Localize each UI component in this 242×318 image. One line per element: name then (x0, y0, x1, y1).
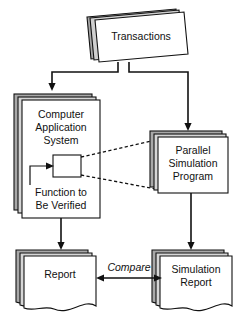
report-panel (24, 256, 96, 311)
node-transactions-label: Transactions (111, 30, 171, 42)
node-transactions[interactable]: Transactions (87, 9, 188, 62)
simulation-report-label-line-1: Simulation (171, 263, 220, 275)
edge-psp-to-simulation-report (187, 193, 194, 250)
simulation-report-label-line-2: Report (180, 276, 212, 288)
compare-arrowhead-left (96, 274, 104, 281)
arrowhead-report (57, 242, 64, 250)
arrowhead-psp (184, 123, 191, 131)
function-inner-box[interactable] (53, 155, 81, 177)
node-simulation-report[interactable]: Simulation Report (152, 250, 232, 311)
compare-label: Compare (107, 261, 150, 273)
diagram-canvas: Transactions Computer Application System… (0, 0, 242, 318)
edge-transactions-to-cas (52, 62, 118, 84)
function-label-line-1: Function to (35, 186, 87, 198)
edge-cas-to-report (57, 218, 64, 250)
psp-label-line-2: Simulation (168, 157, 217, 169)
cas-label-line-3: System (43, 134, 78, 146)
node-report[interactable]: Report (16, 250, 96, 311)
cas-label-line-1: Computer (38, 108, 85, 120)
arrowhead-simulation-report (187, 242, 194, 250)
cas-label-line-2: Application (35, 121, 87, 133)
psp-label-line-1: Parallel (175, 144, 210, 156)
function-label-line-2: Be Verified (36, 199, 87, 211)
arrowhead-cas (48, 83, 55, 91)
edge-transactions-to-psp (129, 62, 188, 124)
psp-label-line-3: Program (173, 170, 214, 182)
node-parallel-simulation-program[interactable]: Parallel Simulation Program (150, 131, 228, 193)
report-label: Report (44, 268, 76, 280)
